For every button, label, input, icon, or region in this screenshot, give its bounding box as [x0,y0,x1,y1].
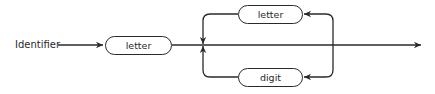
node-first-letter: letter [105,36,172,55]
diagram-lines [0,0,435,94]
node-loop-digit: digit [238,68,303,87]
identifier-label: Identifier [15,39,60,51]
node-loop-letter: letter [238,5,303,24]
